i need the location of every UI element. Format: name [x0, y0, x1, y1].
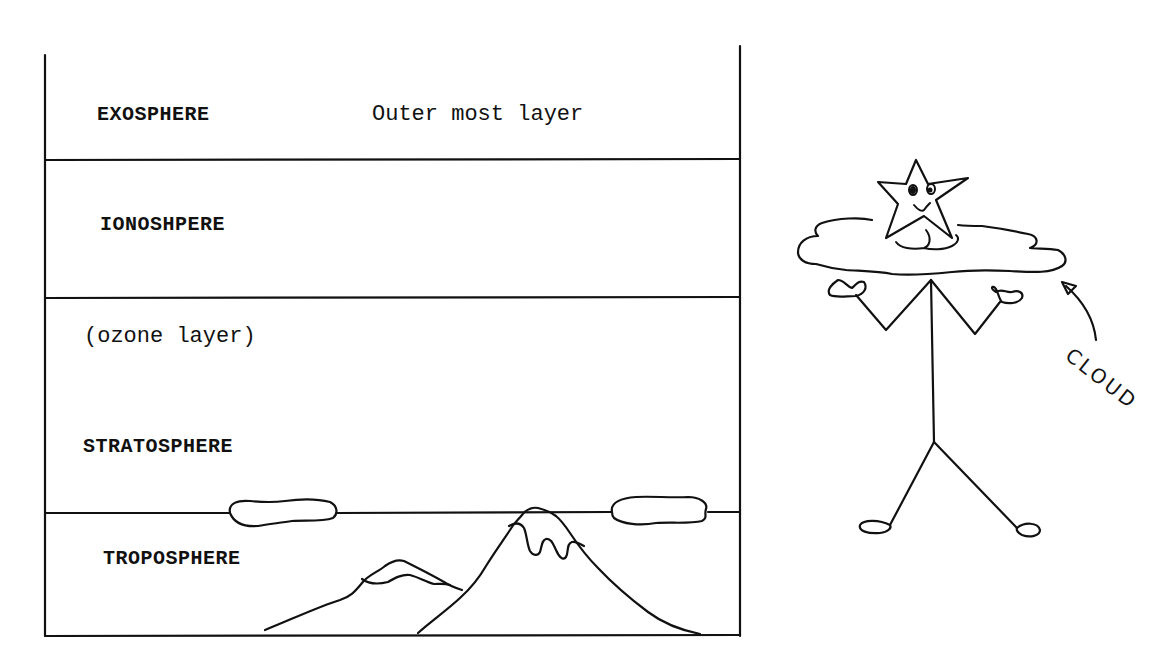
figure-right-leg — [934, 442, 1017, 528]
layer-label-troposphere: TROPOSPHERE — [103, 547, 241, 570]
star-head-icon — [878, 160, 968, 238]
divider-exosphere-ionosphere — [45, 159, 740, 160]
cloud-right-icon — [612, 497, 707, 525]
layer-note-ozone: (ozone layer) — [84, 324, 256, 349]
atmosphere-diagram: EXOSPHERE Outer most layer IONOSHPERE (o… — [0, 0, 1166, 666]
mountains-illustration — [265, 508, 700, 634]
cloud-annotation-label: CLOUD — [1061, 343, 1143, 414]
divider-ionosphere-stratosphere — [45, 297, 740, 298]
layer-label-stratosphere: STRATOSPHERE — [83, 435, 233, 458]
figure-right-foot-icon — [1017, 524, 1040, 537]
figure-left-hand-icon — [829, 280, 866, 297]
divider-stratosphere-troposphere — [45, 512, 740, 513]
figure-right-hand-icon — [992, 287, 1022, 303]
large-mountain-icon — [418, 508, 700, 634]
small-mountain-snowcap — [362, 575, 450, 585]
annotation-arrow — [1066, 286, 1096, 340]
figure-body — [931, 280, 934, 442]
figure-cloud-icon — [798, 218, 1065, 275]
star-smile-icon — [914, 203, 930, 211]
large-mountain-snowcap — [509, 524, 584, 559]
layer-label-exosphere: EXOSPHERE — [97, 103, 210, 126]
figure-left-leg — [890, 442, 934, 525]
layer-label-ionosphere: IONOSHPERE — [100, 213, 225, 236]
figure-right-arm — [931, 280, 1000, 334]
star-character — [798, 160, 1065, 536]
figure-left-foot-icon — [860, 521, 891, 533]
star-left-pupil — [910, 189, 915, 194]
figure-left-arm — [856, 280, 931, 330]
cloud-annotation: CLOUD — [1061, 282, 1143, 414]
layer-note-exosphere: Outer most layer — [372, 102, 583, 127]
frame-bottom-edge — [45, 635, 740, 636]
cloud-left-icon — [230, 500, 337, 527]
star-right-pupil — [928, 188, 933, 193]
